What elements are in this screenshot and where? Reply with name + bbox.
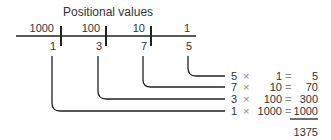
place-value-1: 1 — [152, 22, 190, 34]
digit-ones: 5 — [152, 40, 192, 52]
digit-hundreds: 3 — [62, 40, 102, 52]
digit-thousands: 1 — [16, 40, 56, 52]
digit-tens: 7 — [107, 40, 147, 52]
place-value-1000: 1000 — [16, 22, 54, 34]
total: 1375 — [290, 126, 318, 138]
place-value-100: 100 — [62, 22, 100, 34]
diagram-title: Positional values — [63, 6, 153, 18]
place-value-10: 10 — [107, 22, 145, 34]
